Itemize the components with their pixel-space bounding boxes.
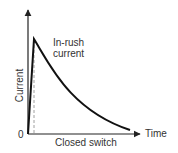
y-axis-label: Current xyxy=(14,67,25,105)
x-axis-label: Time xyxy=(145,128,167,139)
peak-annotation-line2: current xyxy=(53,48,84,59)
switch-label: Closed switch xyxy=(55,137,117,148)
origin-label: 0 xyxy=(18,129,24,140)
inrush-current-diagram: 0 Time Closed switch In-rush current Cur… xyxy=(0,0,178,153)
peak-annotation-line1: In-rush xyxy=(53,37,84,48)
